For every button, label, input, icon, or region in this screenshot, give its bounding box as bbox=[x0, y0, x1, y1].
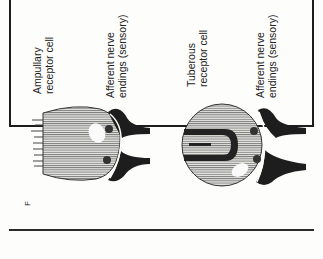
synapse-icon bbox=[250, 127, 258, 135]
nerve-ending-lower bbox=[256, 149, 306, 185]
receptor-diagram bbox=[0, 0, 323, 259]
synapse-icon bbox=[105, 125, 113, 133]
synapse-icon bbox=[103, 156, 111, 164]
tuberous-cell bbox=[182, 104, 306, 186]
ampullary-cell bbox=[31, 107, 150, 182]
synapse-icon bbox=[253, 155, 261, 163]
